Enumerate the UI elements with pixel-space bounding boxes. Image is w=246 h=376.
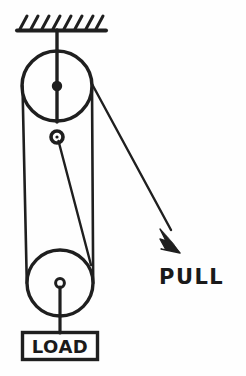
rope-right-strand [92, 85, 93, 283]
load-block: LOAD [23, 333, 98, 360]
rope-idler-strand [59, 141, 92, 265]
small-idler-pulley [51, 131, 63, 143]
pulley-diagram: LOAD PULL [0, 0, 246, 376]
ceiling-hatch-marks [20, 16, 103, 29]
pull-label: PULL [159, 265, 224, 289]
load-label: LOAD [32, 336, 89, 357]
pull-force-arrow [92, 84, 180, 253]
idler-pulley-hub [55, 135, 58, 138]
pull-arrow-shaft [92, 84, 171, 230]
rope-left-strand [23, 86, 27, 283]
hatched-ceiling-support [17, 16, 106, 31]
pull-arrow-head [160, 229, 180, 253]
pulley-diagram-canvas: LOAD PULL [0, 0, 246, 376]
upper-pulley-hub [53, 82, 61, 90]
